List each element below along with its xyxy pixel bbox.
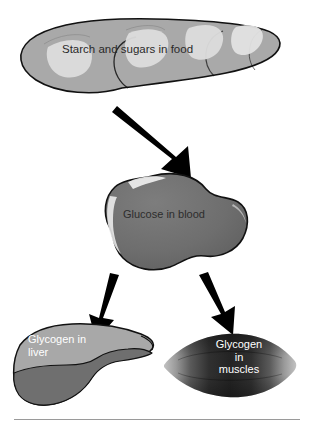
diagram-container: Starch and sugars in food Glucose in blo… bbox=[0, 0, 311, 431]
diagram-canvas bbox=[0, 0, 311, 431]
node-muscles-shape bbox=[164, 334, 296, 398]
node-liver-shape bbox=[14, 324, 154, 405]
node-food-shape bbox=[21, 19, 280, 93]
arrow-food-to-glucose bbox=[112, 106, 191, 178]
bottom-divider bbox=[14, 419, 300, 420]
arrow-glucose-to-muscles bbox=[199, 272, 235, 335]
node-glucose-shape bbox=[105, 174, 247, 270]
